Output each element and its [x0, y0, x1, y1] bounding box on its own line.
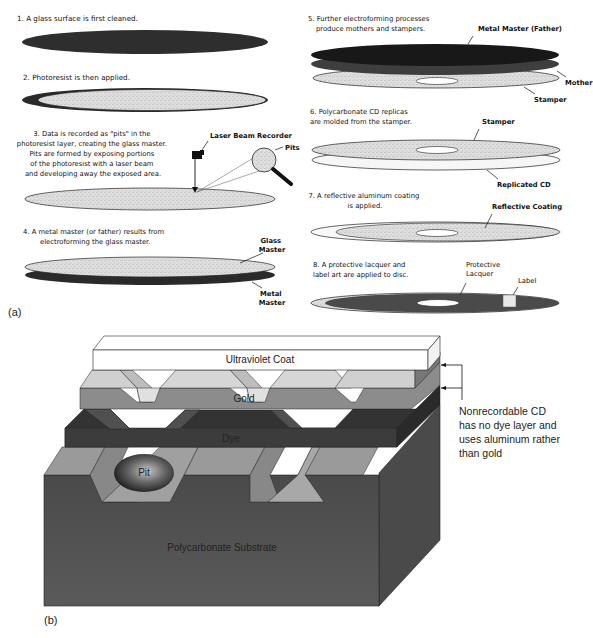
arrow-head-icon — [441, 386, 446, 390]
glass-disc — [22, 30, 268, 54]
glass-master-label: Glass Master — [259, 237, 286, 254]
step-8-caption: 8. A protective lacquer and label art ar… — [313, 261, 408, 279]
arrow-head-icon — [441, 363, 446, 367]
leader-line — [252, 282, 262, 288]
leader-line — [468, 36, 473, 44]
nonrecordable-note-text: Nonrecordable CD has no dye layer and us… — [459, 405, 563, 459]
center-hole — [416, 147, 458, 154]
leader-line — [275, 147, 283, 150]
panel-b-label: (b) — [44, 614, 57, 626]
step-3: 3. Data is recorded as "pits" in the pho… — [17, 130, 300, 210]
metal-master-label: Metal Master — [259, 290, 286, 307]
reflective-coating-label: Reflective Coating — [492, 203, 562, 211]
step-4-caption: 4. A metal master (or father) results fr… — [23, 228, 166, 246]
center-hole — [416, 78, 458, 85]
step-8: 8. A protective lacquer and label art ar… — [311, 261, 559, 313]
step-2: 2. Photoresist is then applied. — [22, 73, 268, 112]
glass-master-disc — [25, 188, 275, 210]
step-6: 6. Polycarbonate CD replicas are molded … — [310, 108, 560, 189]
uv-coat-label: Ultraviolet Coat — [226, 354, 295, 365]
magnifier-ray — [197, 157, 255, 192]
center-hole — [416, 230, 458, 237]
step-7-caption: 7. A reflective aluminum coating is appl… — [308, 192, 421, 210]
step-7: 7. A reflective aluminum coating is appl… — [308, 192, 562, 242]
cd-manufacturing-figure: 1. A glass surface is first cleaned. 2. … — [0, 0, 593, 638]
leader-line — [513, 287, 518, 295]
nonrecordable-note: Nonrecordable CD has no dye layer and us… — [441, 363, 563, 459]
stamper-label: Stamper — [534, 96, 567, 104]
center-hole — [417, 300, 459, 307]
step-6-caption: 6. Polycarbonate CD replicas are molded … — [310, 108, 412, 126]
leader-line — [487, 170, 498, 179]
metal-master-father-label: Metal Master (Father) — [478, 25, 562, 33]
protective-lacquer-label: Protective Lacquer — [466, 261, 502, 278]
leader-line — [524, 87, 535, 94]
leader-line — [474, 129, 479, 140]
laser-beam-recorder-label: Laser Beam Recorder — [210, 132, 292, 140]
pits-label: Pits — [285, 144, 300, 152]
metal-master-father-disc — [311, 44, 559, 66]
step-5: 5. Further electroforming processes prod… — [308, 15, 593, 104]
magnifier-ray — [197, 170, 262, 192]
gold-layer-label: Gold — [233, 393, 254, 404]
label-art — [503, 295, 516, 307]
magnifier-handle-icon — [273, 169, 291, 184]
step-3-caption: 3. Data is recorded as "pits" in the pho… — [17, 130, 169, 178]
step-1-caption: 1. A glass surface is first cleaned. — [17, 14, 138, 23]
leader-line — [202, 141, 208, 150]
step-2-caption: 2. Photoresist is then applied. — [23, 73, 130, 82]
glass-master-disc — [25, 257, 275, 277]
replicated-cd-label: Replicated CD — [497, 181, 551, 189]
label-label: Label — [518, 277, 536, 285]
photoresist-layer — [38, 90, 266, 111]
mother-label: Mother — [565, 79, 593, 87]
gold-land-top — [335, 370, 415, 388]
cd-layer-cross-section: Pit Dye Gold Ultraviolet Coat Polycarbon… — [44, 336, 440, 606]
substrate-label: Polycarbonate Substrate — [167, 542, 277, 553]
uv-coat-top — [93, 336, 440, 350]
step-4: 4. A metal master (or father) results fr… — [23, 228, 286, 307]
dye-layer-label: Dye — [222, 433, 240, 444]
leader-line — [557, 71, 566, 77]
pit-label: Pit — [138, 467, 150, 478]
laser-recorder-icon-detail — [200, 150, 204, 155]
step-5-caption: 5. Further electroforming processes prod… — [308, 15, 431, 33]
step-1: 1. A glass surface is first cleaned. — [17, 14, 268, 54]
panel-a-label: (a) — [8, 306, 21, 318]
stamper-label-6: Stamper — [482, 118, 515, 126]
substrate-front-face — [44, 475, 379, 606]
